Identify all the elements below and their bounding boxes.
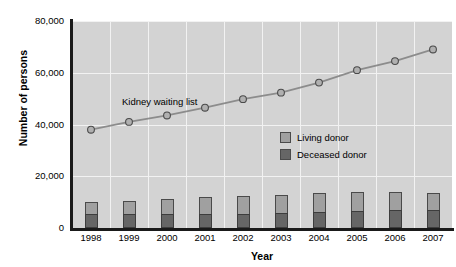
y-axis-tick-labels: 020,00040,00060,00080,000: [0, 0, 68, 267]
x-axis-line: [70, 228, 454, 231]
x-tick-label: 2005: [336, 232, 378, 243]
y-axis-line: [70, 19, 73, 230]
legend-label-living-donor: Living donor: [297, 132, 349, 143]
line-marker: [392, 58, 399, 65]
x-tick-label: 2000: [146, 232, 188, 243]
y-tick-label: 20,000: [0, 170, 64, 181]
line-path: [91, 49, 433, 129]
line-marker: [88, 126, 95, 133]
x-tick-label: 2002: [222, 232, 264, 243]
line-marker: [202, 104, 209, 111]
plot-area: Kidney waiting list Living donor Decease…: [72, 21, 452, 228]
line-marker: [278, 89, 285, 96]
line-series-kidney-waiting-list: [72, 21, 452, 228]
x-tick-label: 2001: [184, 232, 226, 243]
x-tick-label: 2003: [260, 232, 302, 243]
x-tick-label: 1998: [70, 232, 112, 243]
x-tick-label: 2006: [374, 232, 416, 243]
chart-figure: Number of persons 020,00040,00060,00080,…: [0, 0, 456, 267]
line-marker: [126, 119, 133, 126]
y-tick-label: 0: [0, 222, 64, 233]
x-tick-label: 2007: [412, 232, 454, 243]
legend-item-living-donor: Living donor: [280, 132, 367, 143]
legend-swatch-deceased-donor: [280, 149, 291, 160]
x-axis-title: Year: [72, 250, 452, 262]
legend-item-deceased-donor: Deceased donor: [280, 149, 367, 160]
line-marker: [354, 67, 361, 74]
legend-swatch-living-donor: [280, 132, 291, 143]
legend: Living donor Deceased donor: [280, 132, 367, 166]
line-marker: [316, 79, 323, 86]
line-marker: [430, 46, 437, 53]
line-marker: [164, 112, 171, 119]
plot-inner: Kidney waiting list Living donor Decease…: [72, 21, 452, 228]
x-tick-label: 1999: [108, 232, 150, 243]
y-tick-label: 60,000: [0, 67, 64, 78]
x-tick-label: 2004: [298, 232, 340, 243]
line-marker: [240, 96, 247, 103]
legend-label-deceased-donor: Deceased donor: [297, 149, 367, 160]
y-tick-label: 80,000: [0, 15, 64, 26]
annotation-kidney-waiting-list: Kidney waiting list: [122, 96, 198, 107]
y-tick-label: 40,000: [0, 119, 64, 130]
